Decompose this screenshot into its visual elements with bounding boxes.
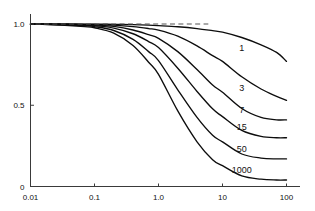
chart-figure: 0.010.11.010100 00.51.0 13715501000	[0, 0, 315, 211]
x-tick-label-0.01: 0.01	[23, 193, 39, 202]
data-curve-3	[31, 24, 287, 100]
y-tick-label-0.5: 0.5	[13, 101, 25, 110]
y-tick-label-0: 0	[20, 183, 25, 192]
x-tick-label-10: 10	[218, 193, 227, 202]
axes-group	[31, 14, 301, 187]
curve-label-50: 50	[237, 144, 247, 154]
curve-label-3: 3	[239, 83, 244, 93]
data-curve-50	[31, 24, 287, 159]
curve-label-1000: 1000	[232, 165, 252, 175]
plot-area: 0.010.11.010100 00.51.0 13715501000	[0, 0, 315, 211]
x-tick-label-0.1: 0.1	[89, 193, 101, 202]
curve-label-1: 1	[239, 43, 244, 53]
data-curve-7	[31, 24, 287, 120]
y-tick-label-1.0: 1.0	[13, 20, 25, 29]
x-tick-label-1.0: 1.0	[153, 193, 165, 202]
curve-label-15: 15	[237, 122, 247, 132]
curves-group	[31, 24, 287, 180]
x-tick-label-100: 100	[280, 193, 294, 202]
curve-label-group: 13715501000	[232, 43, 252, 175]
curve-label-7: 7	[239, 105, 244, 115]
